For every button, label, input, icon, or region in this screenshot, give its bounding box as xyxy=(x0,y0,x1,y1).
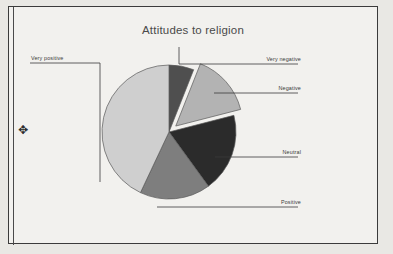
pie-label-negative: Negative xyxy=(279,85,301,91)
pie-label-positive: Positive xyxy=(281,199,301,205)
pie-label-very-negative: Very negative xyxy=(266,56,301,62)
pie-chart xyxy=(9,7,379,245)
pie-slices xyxy=(102,64,241,199)
figure-frame: ✥ Attitudes to religion Very negative Ne… xyxy=(8,6,378,244)
chart-title: Attitudes to religion xyxy=(9,24,377,36)
leader-line-very-positive xyxy=(30,63,100,182)
pie-label-neutral: Neutral xyxy=(283,149,301,155)
pie-label-very-positive: Very positive xyxy=(31,55,64,61)
